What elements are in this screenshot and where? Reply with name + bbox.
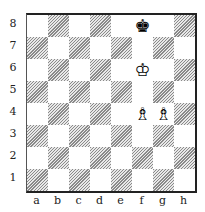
square-f2 <box>132 147 153 169</box>
square-d2 <box>90 147 111 169</box>
square-g1 <box>153 169 174 191</box>
square-h3 <box>174 125 195 147</box>
file-label: e <box>110 194 131 207</box>
white-king-icon: ♔ <box>132 59 153 81</box>
square-g8 <box>153 15 174 37</box>
square-c7 <box>69 37 90 59</box>
square-c2 <box>69 147 90 169</box>
square-e6 <box>111 59 132 81</box>
file-label: h <box>173 194 194 207</box>
square-c4 <box>69 103 90 125</box>
rank-label: 1 <box>6 167 20 189</box>
square-d1 <box>90 169 111 191</box>
square-g3 <box>153 125 174 147</box>
rank-label: 6 <box>6 57 20 79</box>
square-g7 <box>153 37 174 59</box>
square-b2 <box>48 147 69 169</box>
rank-label: 7 <box>6 35 20 57</box>
square-h2 <box>174 147 195 169</box>
square-a2 <box>27 147 48 169</box>
square-e8 <box>111 15 132 37</box>
file-label: g <box>152 194 173 207</box>
square-e7 <box>111 37 132 59</box>
square-f8: ♚ <box>132 15 153 37</box>
square-e4 <box>111 103 132 125</box>
square-c3 <box>69 125 90 147</box>
square-d4 <box>90 103 111 125</box>
square-f4: ♗ <box>132 103 153 125</box>
square-h1 <box>174 169 195 191</box>
rank-label: 8 <box>6 13 20 35</box>
square-d5 <box>90 81 111 103</box>
rank-label: 4 <box>6 101 20 123</box>
file-label: f <box>131 194 152 207</box>
square-c1 <box>69 169 90 191</box>
square-a4 <box>27 103 48 125</box>
chess-board: ♚♔♗♗ <box>26 13 197 193</box>
file-labels: a b c d e f g h <box>26 194 194 207</box>
black-king-icon: ♚ <box>132 15 153 37</box>
square-g2 <box>153 147 174 169</box>
square-h7 <box>174 37 195 59</box>
square-g5 <box>153 81 174 103</box>
square-g4: ♗ <box>153 103 174 125</box>
white-bishop-icon: ♗ <box>132 103 153 125</box>
square-b1 <box>48 169 69 191</box>
file-label: d <box>89 194 110 207</box>
square-d8 <box>90 15 111 37</box>
square-c5 <box>69 81 90 103</box>
file-label: c <box>68 194 89 207</box>
file-label: a <box>26 194 47 207</box>
square-h8 <box>174 15 195 37</box>
square-e3 <box>111 125 132 147</box>
square-h5 <box>174 81 195 103</box>
square-e1 <box>111 169 132 191</box>
rank-label: 3 <box>6 123 20 145</box>
square-e5 <box>111 81 132 103</box>
square-e2 <box>111 147 132 169</box>
square-f6: ♔ <box>132 59 153 81</box>
square-c8 <box>69 15 90 37</box>
square-f5 <box>132 81 153 103</box>
square-f1 <box>132 169 153 191</box>
square-h4 <box>174 103 195 125</box>
square-d7 <box>90 37 111 59</box>
file-label: b <box>47 194 68 207</box>
square-a5 <box>27 81 48 103</box>
square-b3 <box>48 125 69 147</box>
square-a6 <box>27 59 48 81</box>
square-b5 <box>48 81 69 103</box>
square-a7 <box>27 37 48 59</box>
square-f7 <box>132 37 153 59</box>
square-f3 <box>132 125 153 147</box>
white-bishop-icon: ♗ <box>153 103 174 125</box>
square-a1 <box>27 169 48 191</box>
square-c6 <box>69 59 90 81</box>
square-d3 <box>90 125 111 147</box>
square-b8 <box>48 15 69 37</box>
square-b4 <box>48 103 69 125</box>
square-a3 <box>27 125 48 147</box>
rank-labels: 8 7 6 5 4 3 2 1 <box>6 13 20 189</box>
square-b7 <box>48 37 69 59</box>
square-a8 <box>27 15 48 37</box>
square-g6 <box>153 59 174 81</box>
square-d6 <box>90 59 111 81</box>
square-b6 <box>48 59 69 81</box>
rank-label: 2 <box>6 145 20 167</box>
rank-label: 5 <box>6 79 20 101</box>
square-h6 <box>174 59 195 81</box>
